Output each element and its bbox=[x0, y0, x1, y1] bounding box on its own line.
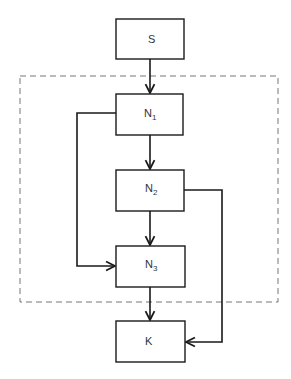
node-k-label: K bbox=[145, 335, 153, 347]
node-n1: N1 bbox=[116, 94, 183, 135]
node-n2: N2 bbox=[116, 170, 184, 211]
node-s-label: S bbox=[148, 33, 155, 45]
node-n3: N3 bbox=[116, 246, 185, 287]
node-k: K bbox=[116, 321, 185, 362]
flowchart-canvas: S N1 N2 N3 K bbox=[0, 0, 291, 379]
edge-n1-n3-loop bbox=[77, 113, 116, 266]
node-s: S bbox=[116, 19, 184, 59]
edge-n2-k-loop bbox=[184, 190, 222, 342]
